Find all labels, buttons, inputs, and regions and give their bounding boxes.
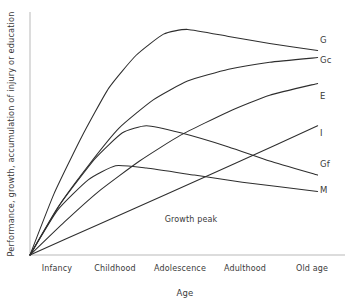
growth-peak-annotation: Growth peak (165, 215, 218, 224)
x-tick-labels: Infancy Childhood Adolescence Adulthood … (42, 264, 328, 273)
x-tick-label-adulthood: Adulthood (224, 264, 266, 273)
series-labels: G Gc E I Gf M (320, 35, 332, 195)
y-axis-title: Performance, growth, accumulation of inj… (6, 12, 16, 257)
curve-Gc (30, 58, 318, 255)
chart-container: G Gc E I Gf M Infancy Childhood Adolesce… (0, 0, 357, 306)
curve-E (30, 83, 318, 255)
line-chart: G Gc E I Gf M Infancy Childhood Adolesce… (0, 0, 357, 306)
x-tick-label-adolescence: Adolescence (154, 264, 206, 273)
x-tick-label-infancy: Infancy (42, 264, 73, 273)
series-label-E: E (320, 91, 326, 101)
series-label-G: G (320, 35, 327, 45)
series-label-Gc: Gc (320, 55, 332, 65)
series-label-I: I (320, 128, 323, 138)
x-tick-label-old-age: Old age (296, 264, 328, 273)
x-tick-label-childhood: Childhood (94, 264, 135, 273)
series-label-M: M (320, 185, 327, 195)
curve-M (30, 165, 318, 255)
curve-I (30, 126, 318, 255)
x-axis-title: Age (177, 288, 194, 298)
series-label-Gf: Gf (320, 159, 331, 169)
